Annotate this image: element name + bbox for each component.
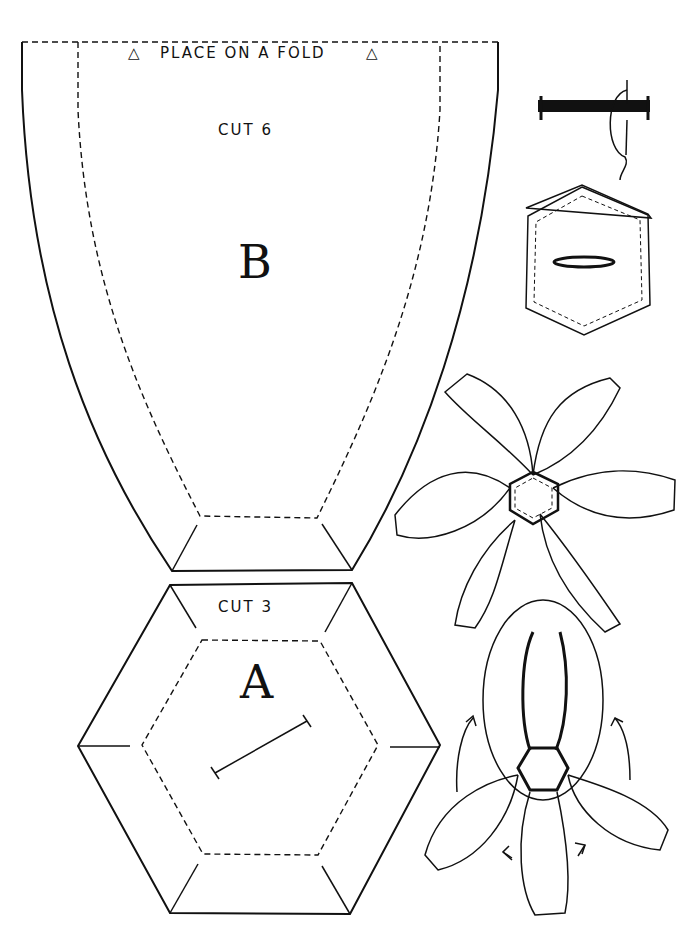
fold-marker-right: △ [366,44,380,62]
piece-a-letter: A [239,655,274,709]
arrow-left-icon [457,718,473,792]
hexagon-slit-illustration [526,185,651,335]
piece-a-cut-label: CUT 3 [218,598,273,616]
slit-line [215,721,307,773]
flower-folding-illustration [425,600,668,915]
fold-label: PLACE ON A FOLD [160,44,326,62]
sewing-pattern-sheet: △ PLACE ON A FOLD △ CUT 6 B CUT 3 A [0,0,689,937]
fold-marker-left: △ [128,44,142,62]
whip-stitch-illustration [538,80,650,180]
piece-b-letter: B [238,235,272,289]
arrow-right-icon [615,718,630,780]
slit-icon [554,257,614,267]
pattern-piece-b: △ PLACE ON A FOLD △ CUT 6 B [22,42,498,571]
pattern-piece-a: CUT 3 A [78,583,440,914]
piece-b-cut-label: CUT 6 [218,121,273,139]
flower-flat-illustration [395,374,675,632]
